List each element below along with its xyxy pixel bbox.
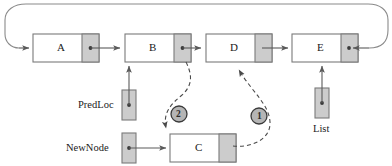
predloc-label: PredLoc — [78, 100, 114, 111]
node-e-label: E — [317, 42, 324, 53]
linked-list-diagram: A B D E C PredLoc NewNode List 2 1 — [0, 0, 392, 166]
node-d-label: D — [230, 42, 238, 53]
node-a-label: A — [57, 42, 65, 53]
newnode-label: NewNode — [66, 143, 109, 154]
node-b — [125, 34, 191, 62]
node-b-label: B — [149, 42, 157, 53]
list-label: List — [313, 124, 329, 135]
step-2-label: 2 — [176, 110, 181, 120]
node-c-label: C — [195, 142, 203, 153]
node-a — [33, 34, 99, 62]
step-1-label: 1 — [257, 112, 262, 122]
node-c — [170, 134, 236, 162]
node-e — [292, 34, 358, 62]
dashed-link-c-to-d — [233, 70, 270, 146]
